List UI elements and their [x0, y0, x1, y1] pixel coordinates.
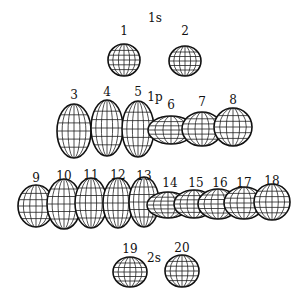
orbital-18: 18 — [254, 174, 290, 220]
orbital-number: 16 — [212, 176, 227, 190]
orbital-number: 9 — [32, 171, 40, 185]
orbital-number: 14 — [162, 176, 178, 190]
orbital-19: 19 — [113, 242, 147, 287]
orbital-3: 3 — [57, 88, 91, 158]
orbital-number: 13 — [136, 169, 151, 183]
shell-label: 1s — [148, 11, 162, 25]
orbital-1: 1 — [108, 24, 140, 76]
orbital-number: 15 — [188, 176, 203, 190]
shell-label: 2s — [147, 251, 161, 265]
orbital-4: 4 — [91, 85, 123, 156]
orbital-number: 12 — [110, 168, 125, 182]
orbital-shapes: 1234567891011121314151617181920 — [18, 24, 290, 287]
orbital-number: 1 — [120, 24, 128, 38]
orbital-number: 17 — [236, 176, 251, 190]
orbital-diagram: 1s1p1d2s 1234567891011121314151617181920 — [0, 0, 306, 307]
orbital-number: 20 — [174, 241, 189, 255]
orbital-11: 11 — [75, 168, 107, 228]
orbital-number: 8 — [229, 93, 237, 107]
orbital-number: 6 — [167, 98, 175, 112]
shell-label: 1p — [147, 90, 163, 104]
orbital-2: 2 — [169, 24, 201, 76]
orbital-number: 4 — [103, 85, 111, 99]
orbital-number: 18 — [264, 174, 279, 188]
orbital-number: 7 — [198, 95, 206, 109]
orbital-number: 10 — [56, 169, 71, 183]
orbital-number: 3 — [70, 88, 78, 102]
orbital-number: 5 — [134, 85, 142, 99]
orbital-number: 2 — [181, 24, 189, 38]
orbital-number: 19 — [122, 242, 137, 256]
orbital-8: 8 — [214, 93, 252, 146]
orbital-20: 20 — [165, 241, 199, 287]
orbital-number: 11 — [83, 168, 98, 182]
